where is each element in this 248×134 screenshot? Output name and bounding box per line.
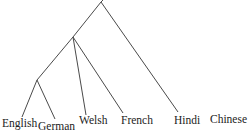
edge-root-stub [101, 0, 103, 2]
edge-middle-to-welsh [73, 37, 86, 115]
leaf-label-welsh: Welsh [79, 114, 108, 126]
language-tree-diagram: English German Welsh French Hindi Chines… [0, 0, 248, 134]
edge-middle-to-french [73, 37, 123, 113]
leaf-label-chinese: Chinese [210, 113, 247, 125]
leaf-labels: English German Welsh French Hindi Chines… [2, 113, 247, 132]
leaf-label-hindi: Hindi [174, 114, 200, 126]
leaf-label-german: German [38, 120, 75, 132]
edge-lower-to-english [22, 80, 37, 117]
leaf-label-english: English [2, 117, 37, 130]
tree-edges [22, 0, 178, 119]
edge-lower-to-german [37, 80, 55, 119]
edge-middle-to-lower-node [37, 37, 73, 80]
leaf-label-french: French [121, 114, 153, 126]
edge-root-to-middle-node [73, 2, 101, 37]
edge-root-to-hindi [101, 2, 178, 112]
